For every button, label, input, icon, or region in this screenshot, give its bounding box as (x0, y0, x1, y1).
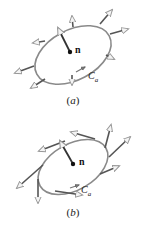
caption-b: (b) (0, 206, 146, 218)
normal-label-n: n (79, 156, 85, 167)
normal-label-n: n (75, 44, 81, 55)
panel-b: n Ca (b) (0, 112, 146, 225)
caption-a: (a) (0, 94, 146, 106)
curve-label-ca: Ca (81, 184, 91, 198)
panel-a: n Ca (a) (0, 0, 146, 112)
curve-label-ca: Ca (88, 70, 98, 84)
